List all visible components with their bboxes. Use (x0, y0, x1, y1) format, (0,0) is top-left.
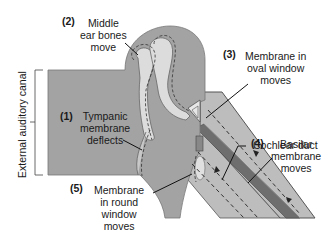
step-5-label: Membrane in round window moves (94, 184, 144, 232)
canal-label: External auditory canal (16, 71, 28, 178)
step-4-label: Basilar membrane moves (271, 138, 321, 174)
step-2-label: Middle ear bones move (80, 17, 127, 53)
step-1-label: Tympanic membrane deflects (80, 110, 130, 146)
step-3-label: Membrane in oval window moves (245, 50, 306, 86)
step-2-number: (2) (62, 15, 75, 27)
step-4-number-visible: (4) (251, 137, 264, 149)
oval-window-membrane (196, 136, 203, 151)
step-1-number: (1) (60, 110, 73, 122)
step-3-number: (3) (223, 48, 236, 60)
step-5-number: (5) (70, 182, 83, 194)
ear-diagram (0, 0, 335, 243)
canal-bracket (30, 70, 43, 175)
